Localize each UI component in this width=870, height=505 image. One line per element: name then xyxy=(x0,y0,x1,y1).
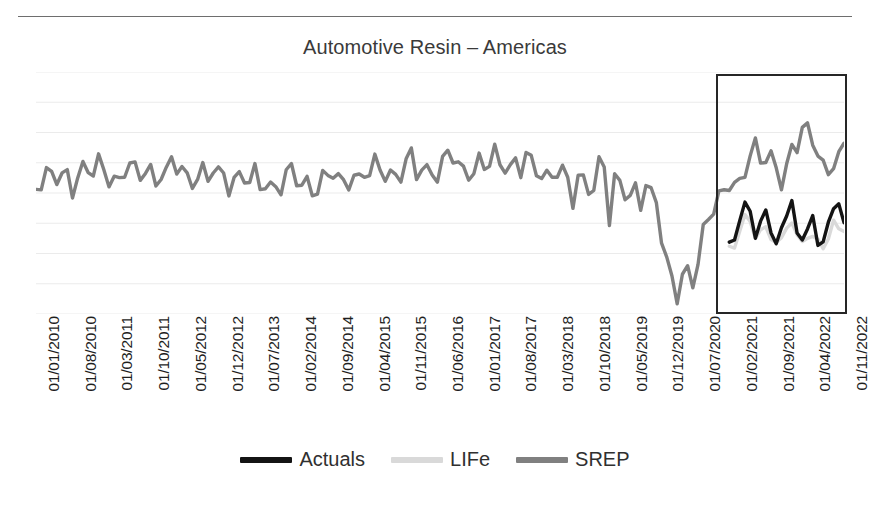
legend-item-actuals[interactable]: Actuals xyxy=(240,448,365,471)
x-tick-label: 01/05/2012 xyxy=(192,316,210,392)
x-tick-label: 01/02/2014 xyxy=(302,316,320,392)
x-tick-label: 01/08/2010 xyxy=(82,316,100,392)
x-axis-tick-labels: 01/01/201001/08/201001/03/201101/10/2011… xyxy=(36,316,844,436)
series-layer xyxy=(36,123,844,304)
x-tick-label: 01/10/2018 xyxy=(596,316,614,392)
x-tick-label: 01/01/2017 xyxy=(486,316,504,392)
x-tick-label: 01/04/2022 xyxy=(816,316,834,392)
x-tick-label: 01/11/2022 xyxy=(853,316,870,390)
gridlines xyxy=(36,72,844,314)
series-line-srep xyxy=(36,123,844,304)
plot-svg xyxy=(36,72,844,314)
x-tick-label: 01/05/2019 xyxy=(633,316,651,392)
x-tick-label: 01/12/2019 xyxy=(669,316,687,392)
chart-figure: Automotive Resin – Americas 01/01/201001… xyxy=(0,0,870,505)
x-tick-label: 01/09/2021 xyxy=(780,316,798,392)
legend-actuals-swatch-icon xyxy=(240,457,292,463)
x-tick-label: 01/10/2011 xyxy=(155,316,173,390)
x-tick-label: 01/06/2016 xyxy=(449,316,467,392)
x-tick-label: 01/12/2012 xyxy=(229,316,247,392)
x-tick-label: 01/08/2017 xyxy=(522,316,540,392)
chart-legend: ActualsLIFeSREP xyxy=(0,448,870,471)
x-tick-label: 01/04/2015 xyxy=(376,316,394,392)
x-tick-label: 01/11/2015 xyxy=(412,316,430,390)
x-tick-label: 01/02/2021 xyxy=(743,316,761,392)
chart-title: Automotive Resin – Americas xyxy=(0,36,870,59)
plot-area xyxy=(36,72,844,314)
x-tick-label: 01/07/2013 xyxy=(265,316,283,392)
legend-item-srep[interactable]: SREP xyxy=(516,448,629,471)
x-tick-label: 01/03/2011 xyxy=(118,316,136,390)
legend-srep-swatch-icon xyxy=(516,457,568,463)
x-tick-label: 01/03/2018 xyxy=(559,316,577,392)
legend-item-label: SREP xyxy=(575,448,629,471)
x-tick-label: 01/01/2010 xyxy=(45,316,63,392)
x-tick-label: 01/09/2014 xyxy=(339,316,357,392)
legend-life-swatch-icon xyxy=(391,457,443,463)
legend-item-life[interactable]: LIFe xyxy=(391,448,490,471)
legend-item-label: Actuals xyxy=(299,448,365,471)
header-divider xyxy=(18,16,852,17)
x-tick-label: 01/07/2020 xyxy=(706,316,724,392)
legend-item-label: LIFe xyxy=(450,448,490,471)
